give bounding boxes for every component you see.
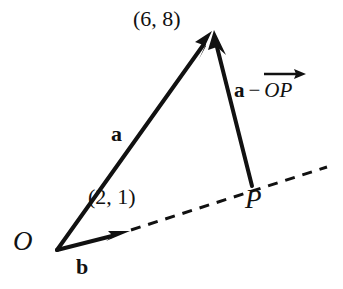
expr-vector-op-group: OP — [264, 78, 292, 101]
vector-a-arrow — [57, 31, 212, 250]
label-origin: O — [13, 228, 33, 255]
overarrow-icon — [263, 67, 307, 79]
expr-op-text: OP — [264, 78, 292, 102]
label-a-minus-vector-op: a − OP — [234, 78, 292, 101]
vector-a-shaft — [57, 44, 204, 250]
label-point-p: P — [245, 186, 262, 213]
vector-a-minus-op-arrow — [208, 30, 252, 186]
label-apex-coordinates: (6, 8) — [133, 8, 181, 30]
vector-a-minus-op-shaft — [217, 47, 252, 186]
label-vector-a: a — [111, 123, 122, 145]
dashed-line-extension — [131, 167, 327, 230]
label-b-coordinates: (2, 1) — [88, 186, 136, 208]
expr-vector-a: a — [234, 80, 245, 101]
expr-minus-sign: − — [248, 80, 262, 101]
vector-diagram — [0, 0, 343, 289]
label-vector-b: b — [76, 256, 88, 278]
